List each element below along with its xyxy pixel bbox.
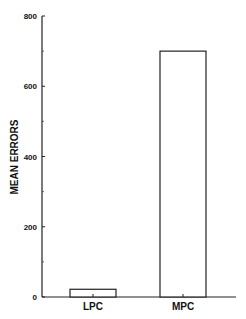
bars: LPCMPC (70, 51, 206, 312)
bar-mpc (160, 51, 206, 297)
y-tick-label: 0 (33, 293, 38, 302)
y-tick-label: 200 (24, 223, 38, 232)
y-axis-title: MEAN ERRORS (9, 119, 20, 194)
x-category-label: LPC (83, 301, 103, 312)
x-category-label: MPC (172, 301, 194, 312)
y-tick-label: 400 (24, 153, 38, 162)
bar-chart: 0200400600800 LPCMPC MEAN ERRORS (0, 0, 246, 319)
y-tick-label: 600 (24, 82, 38, 91)
y-tick-label: 800 (24, 12, 38, 21)
